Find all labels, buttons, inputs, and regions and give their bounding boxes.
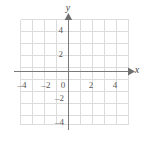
x-axis-label: x	[134, 64, 140, 75]
y-tick-label-pos2: 2	[59, 49, 64, 59]
x-tick-label-pos4: 4	[113, 80, 118, 90]
coordinate-plane-svg: x y –4 –2 0 2 4 4 2 –2 –4	[0, 0, 144, 142]
y-tick-label-pos4: 4	[59, 25, 64, 35]
y-axis-label: y	[65, 2, 71, 13]
x-tick-label-neg2: –2	[41, 80, 51, 90]
coordinate-plane-figure: x y –4 –2 0 2 4 4 2 –2 –4	[0, 0, 144, 142]
y-tick-label-neg2: –2	[54, 93, 64, 103]
x-tick-label-neg4: –4	[17, 80, 28, 90]
y-tick-label-neg4: –4	[54, 117, 65, 127]
origin-label: 0	[61, 80, 66, 90]
x-tick-label-pos2: 2	[89, 80, 94, 90]
